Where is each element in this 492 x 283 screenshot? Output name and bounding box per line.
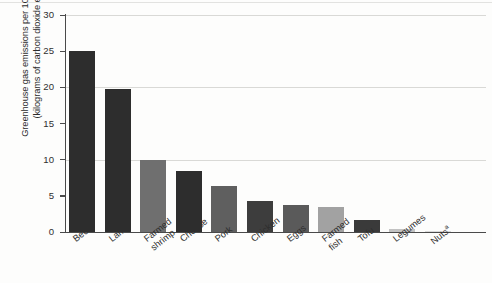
y-tick-label: 10 (14, 154, 54, 165)
plot-area (66, 15, 486, 232)
y-tick-label: 30 (14, 9, 54, 20)
x-axis-line (66, 232, 486, 233)
y-tick-label: 5 (14, 190, 54, 201)
y-tick-label: 20 (14, 81, 54, 92)
y-tick-label: 25 (14, 45, 54, 56)
chart-page: Greenhouse gas emissions per 100 grams p… (0, 0, 492, 283)
y-tick-label: 0 (14, 226, 54, 237)
bar-pork[interactable] (211, 186, 237, 232)
y-axis-title-line1: Greenhouse gas emissions per 100 grams p… (20, 0, 30, 137)
bar-lamb[interactable] (105, 89, 131, 232)
y-tick-label: 15 (14, 118, 54, 129)
bar-beef[interactable] (69, 51, 95, 232)
top-rule-divider (0, 2, 492, 3)
